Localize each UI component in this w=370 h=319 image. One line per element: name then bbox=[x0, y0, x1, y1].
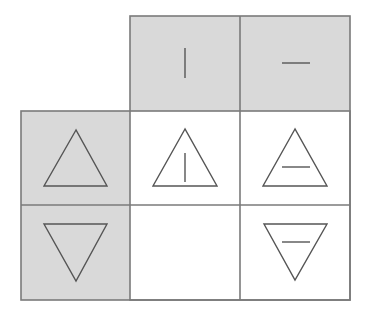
cell-r2-c1-empty[interactable] bbox=[130, 205, 240, 300]
cell-r1-c2 bbox=[240, 111, 350, 205]
cell-r2-c2 bbox=[240, 205, 350, 300]
puzzle-grid bbox=[0, 0, 370, 319]
row-header-1 bbox=[21, 111, 130, 205]
row-header-2 bbox=[21, 205, 130, 300]
puzzle-stage bbox=[0, 0, 370, 319]
